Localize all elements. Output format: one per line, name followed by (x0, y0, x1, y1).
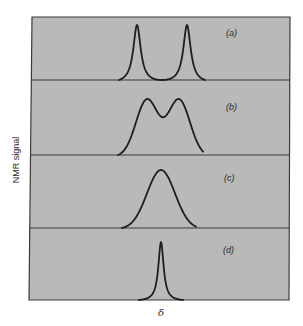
panel-label-b: (b) (226, 102, 237, 112)
panel-c-bg (30, 155, 289, 228)
panel-label-d: (d) (223, 245, 234, 255)
x-axis-label: δ (158, 307, 164, 318)
panel-label-a: (a) (226, 28, 237, 38)
y-axis-label: NMR signal (11, 137, 21, 184)
panel-b-bg (31, 80, 290, 155)
panel-a-bg (32, 17, 290, 80)
panel-label-c: (c) (224, 173, 235, 183)
nmr-chart: (a) (b) (c) (d) NMR signal δ (0, 0, 303, 326)
